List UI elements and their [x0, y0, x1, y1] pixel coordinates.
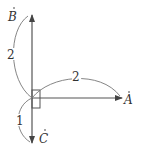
point-b-label: B — [7, 10, 17, 24]
vector-diagram: 2 2 1 B A C — [0, 0, 144, 155]
point-a-label: A — [123, 93, 133, 107]
arc-ob-label: 2 — [7, 48, 15, 62]
point-c-label: C — [39, 132, 48, 146]
arc-oc-label: 1 — [16, 114, 24, 128]
arc-oa-label: 2 — [72, 70, 80, 84]
point-a-dot — [128, 91, 130, 93]
point-c-dot — [44, 129, 46, 131]
arc-ob — [13, 16, 32, 98]
point-b-dot — [13, 7, 15, 9]
right-angle-marker — [32, 90, 40, 108]
